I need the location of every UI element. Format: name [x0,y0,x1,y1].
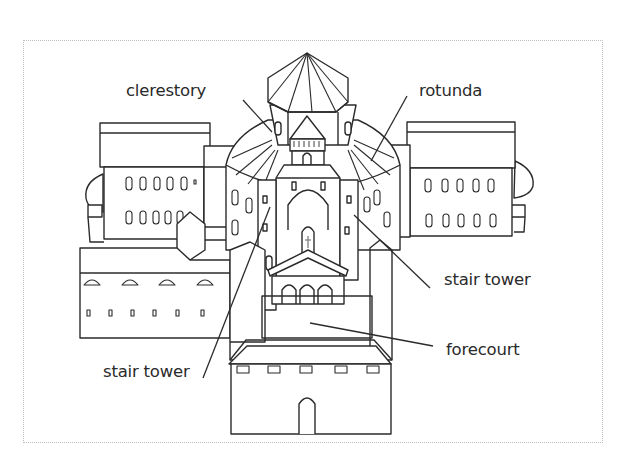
building-illustration [0,0,627,471]
label-forecourt: forecourt [446,342,520,359]
gatehouse [229,346,391,434]
left-wing [86,123,234,242]
label-rotunda: rotunda [419,83,482,100]
dome [268,53,348,112]
label-stair-tower-right: stair tower [444,272,531,289]
right-wing [380,122,533,237]
label-clerestory: clerestory [126,83,206,100]
stair-tower-right [340,180,358,280]
label-stair-tower-left: stair tower [103,364,190,381]
